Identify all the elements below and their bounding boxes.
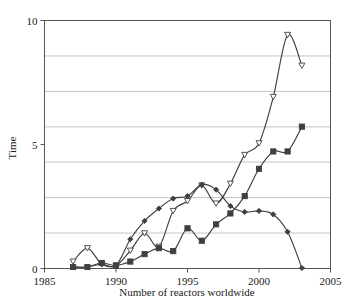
data-point-square xyxy=(242,193,247,198)
x-tick-label: 2005 xyxy=(320,275,343,287)
y-tick-label: 0 xyxy=(32,263,38,275)
chart-background xyxy=(0,0,357,302)
data-point-square xyxy=(185,226,190,231)
data-point-square xyxy=(256,166,261,171)
data-point-square xyxy=(142,252,147,257)
x-axis-title: Number of reactors worldwide xyxy=(119,286,254,298)
x-tick-label: 1995 xyxy=(177,275,200,287)
data-point-square xyxy=(214,222,219,227)
data-point-square xyxy=(128,259,133,264)
x-tick-label: 2000 xyxy=(248,275,271,287)
data-point-square xyxy=(71,264,76,269)
x-tick-label: 1985 xyxy=(34,275,57,287)
data-point-square xyxy=(299,124,304,129)
data-point-square xyxy=(171,249,176,254)
y-axis-title: Time xyxy=(6,136,18,159)
data-point-square xyxy=(228,211,233,216)
data-point-square xyxy=(271,149,276,154)
data-point-square xyxy=(85,264,90,269)
line-chart: 0510 19851990199520002005 Time Number of… xyxy=(0,0,357,302)
data-point-square xyxy=(99,260,104,265)
data-point-square xyxy=(113,263,118,268)
chart-figure: 0510 19851990199520002005 Time Number of… xyxy=(0,0,357,302)
y-tick-label: 5 xyxy=(32,139,38,151)
data-point-square xyxy=(199,238,204,243)
data-point-square xyxy=(156,246,161,251)
x-tick-label: 1990 xyxy=(105,275,128,287)
data-point-square xyxy=(285,149,290,154)
y-tick-label: 10 xyxy=(27,15,39,27)
